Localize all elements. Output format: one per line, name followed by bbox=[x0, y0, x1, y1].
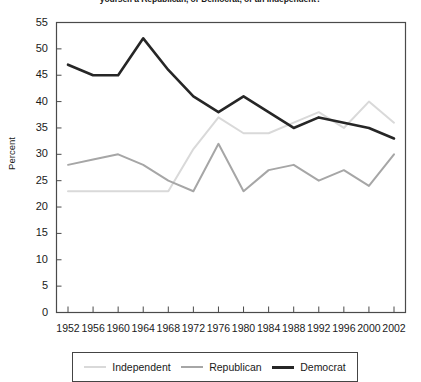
x-axis-ticks bbox=[68, 307, 394, 313]
series-line-independent bbox=[68, 102, 394, 192]
legend-line-swatch bbox=[272, 366, 294, 369]
legend-item-label: Democrat bbox=[300, 361, 346, 373]
y-axis-ticks bbox=[57, 23, 62, 313]
legend-line-swatch bbox=[84, 366, 106, 368]
legend-item-republican[interactable]: Republican bbox=[181, 361, 262, 373]
series-line-republican bbox=[68, 144, 394, 191]
chart-legend: IndependentRepublicanDemocrat bbox=[72, 352, 358, 382]
legend-line-swatch bbox=[181, 366, 203, 368]
series-line-democrat bbox=[68, 38, 394, 138]
legend-item-label: Republican bbox=[209, 361, 262, 373]
legend-item-label: Independent bbox=[112, 361, 170, 373]
legend-item-independent[interactable]: Independent bbox=[84, 361, 170, 373]
legend-item-democrat[interactable]: Democrat bbox=[272, 361, 346, 373]
